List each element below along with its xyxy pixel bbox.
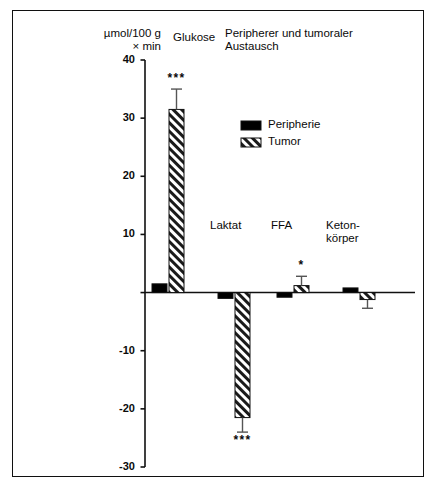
bar-peripherie-1 <box>218 293 233 299</box>
bar-series-group <box>152 89 375 432</box>
bar-peripherie-3 <box>343 288 358 293</box>
y-axis-unit-label: µmol/100 g × min <box>75 27 161 54</box>
category-label-laktat: Laktat <box>210 219 241 232</box>
legend-swatches <box>241 121 261 147</box>
chart-canvas <box>13 11 425 478</box>
y-tick-label-neg20: -20 <box>101 402 135 415</box>
y-tick-label-neg30: -30 <box>101 460 135 473</box>
y-tick-label-10: 10 <box>101 227 135 240</box>
y-tick-label-40: 40 <box>101 53 135 66</box>
category-label-ketonkoerper: Keton- körper <box>326 219 360 246</box>
y-tick-label-neg10: -10 <box>101 344 135 357</box>
significance-marker-tumor-1: *** <box>223 434 263 448</box>
legend-swatch-peripherie <box>241 121 261 130</box>
y-tick-label-30: 30 <box>101 111 135 124</box>
bar-peripherie-0 <box>152 284 167 293</box>
bar-tumor-2 <box>294 286 309 293</box>
chart-title: Peripherer und tumoraler Austausch <box>225 27 353 54</box>
y-tick-label-20: 20 <box>101 169 135 182</box>
significance-marker-tumor-0: *** <box>157 72 197 86</box>
bar-tumor-1 <box>235 293 250 418</box>
plot-area: µmol/100 g × min Peripherer und tumorale… <box>13 11 425 478</box>
bar-tumor-0 <box>169 109 184 292</box>
bar-tumor-3 <box>360 293 375 300</box>
legend-label-peripherie: Peripherie <box>268 118 320 131</box>
significance-marker-tumor-2: * <box>282 259 322 273</box>
figure-frame: µmol/100 g × min Peripherer und tumorale… <box>12 10 424 477</box>
bar-peripherie-2 <box>277 293 292 298</box>
legend-swatch-tumor <box>241 138 261 147</box>
category-label-glukose: Glukose <box>173 31 215 44</box>
category-label-ffa: FFA <box>271 219 292 232</box>
legend-label-tumor: Tumor <box>268 135 301 148</box>
y-axis <box>141 60 146 467</box>
